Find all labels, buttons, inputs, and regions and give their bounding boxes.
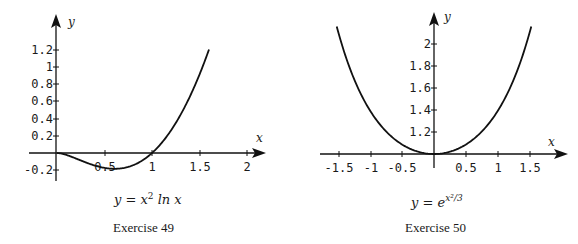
figure: x y 0.511.52 1.210.80.60.40.2-0.2 y = x2… (0, 0, 578, 244)
chart-exercise-50: x y -1.5-1-0.50.511.5 21.81.61.41.2 y = … (320, 10, 568, 235)
x-axis-label: x (256, 131, 263, 145)
x-tick-label: 1 (494, 161, 501, 175)
x-tick-label: -0.5 (388, 161, 417, 175)
y-tick-label: 2 (424, 37, 431, 51)
caption-exercise-49: Exercise 49 (113, 220, 174, 235)
y-tick-labels: 21.81.61.41.2 (409, 37, 437, 139)
y-tick-label: -0.2 (24, 163, 53, 177)
y-tick-labels: 1.210.80.60.40.2-0.2 (24, 43, 59, 177)
x-axis-label: x (548, 135, 555, 149)
formula-exercise-50: y = ex²/3 (410, 193, 463, 210)
x-tick-label: 1.5 (519, 161, 541, 175)
x-tick-label: 2 (243, 160, 250, 174)
caption-exercise-50: Exercise 50 (405, 220, 466, 235)
formula-exercise-49: y = x2 ln x (113, 191, 182, 207)
x-tick-label: 1.5 (189, 160, 211, 174)
curve-x2-lnx (57, 50, 209, 169)
y-tick-label: 0.6 (31, 94, 53, 108)
y-tick-label: 1.6 (409, 81, 431, 95)
x-tick-label: -1 (364, 161, 378, 175)
y-tick-label: 0.2 (31, 129, 53, 143)
y-tick-label: 0.8 (31, 77, 53, 91)
y-tick-label: 1 (46, 60, 53, 74)
y-axis-label: y (67, 15, 75, 29)
y-tick-label: 1.4 (409, 103, 431, 117)
x-tick-label: 1 (148, 160, 155, 174)
y-tick-label: 1.2 (31, 43, 53, 57)
y-axis-label: y (443, 10, 451, 24)
y-tick-label: 1.8 (409, 59, 431, 73)
y-tick-label: 1.2 (409, 125, 431, 139)
chart-exercise-49: x y 0.511.52 1.210.80.60.40.2-0.2 y = x2… (24, 14, 266, 235)
y-tick-label: 0.4 (31, 112, 53, 126)
x-tick-label: -1.5 (325, 161, 354, 175)
x-tick-label: 0.5 (455, 161, 477, 175)
